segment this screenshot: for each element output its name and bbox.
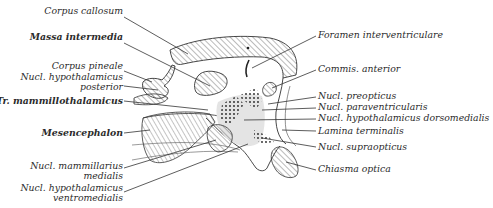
label-nucl-preopticus: Nucl. preopticus [318,91,396,101]
label-nucl-mammillarius-medialis: Nucl. mammillarius medialis [30,161,123,181]
mammillary-body-shape [207,125,232,152]
mesencephalon-shape [142,112,215,163]
label-chiasma-optica: Chiasma optica [318,164,391,174]
label-nucl-hypothalamicus-dorsomedialis: Nucl. hypothalamicus dorsomedialis [318,113,489,123]
label-nucl-paraventricularis: Nucl. paraventricularis [318,102,428,112]
label-nucl-hypothalamicus-ventromedialis: Nucl. hypothalamicus ventromedialis [20,183,123,203]
chiasma-optica-shape [271,147,298,178]
label-commis-anterior: Commis. anterior [318,64,400,74]
corpus-callosum-shape [170,36,297,78]
label-nucl-supraopticus: Nucl. supraopticus [318,142,407,152]
posterior-commissure-shape [134,94,168,105]
label-corpus-callosum: Corpus callosum [44,6,123,16]
label-tr-mammillothalamicus: Tr. mammillothalamicus [0,96,123,106]
lamina-terminalis-line [276,78,286,144]
foramen-mark [246,60,249,77]
label-nucl-hypothalamicus-posterior: Nucl. hypothalamicus posterior [20,72,123,92]
label-corpus-pineale: Corpus pineale [52,61,123,71]
label-foramen-interventriculare: Foramen interventriculare [318,30,443,40]
hypothalamus-diagram: Corpus callosum Massa intermedia Corpus … [0,0,493,208]
massa-intermedia-shape [195,71,228,95]
label-massa-intermedia: Massa intermedia [30,32,123,42]
label-lamina-terminalis: Lamina terminalis [318,126,404,136]
corpus-pineale-shape [143,65,175,98]
commissura-anterior-shape [263,82,277,96]
label-mesencephalon: Mesencephalon [42,128,123,138]
